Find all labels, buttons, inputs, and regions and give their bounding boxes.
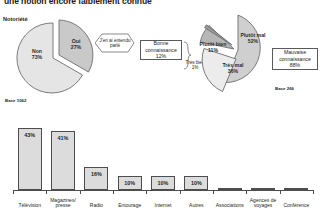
infographic-root: une notion encore faiblement connue Noto…: [0, 0, 322, 215]
bar-value-label: 41%: [52, 135, 74, 141]
bar: 43%: [18, 128, 42, 190]
category-label: Agences de voyages: [244, 198, 281, 209]
callout-entendu-parle-text: J'en ai entendu parlé: [95, 30, 135, 56]
axis-tick: [180, 190, 181, 193]
bar: [251, 188, 275, 190]
callout-mauvaise-connaissance-label: Mauvaise connaissance: [275, 49, 315, 62]
callout-bonne-connaissance: Bonne connaissance 12%: [140, 40, 182, 60]
category-label: Conférence: [278, 203, 315, 209]
bar: 10%: [118, 176, 142, 190]
pie-label-plutot-bien: Plutôt bien 11%: [199, 41, 227, 53]
pie-label-plutot-mal: Plutôt mal 52%: [236, 32, 270, 44]
axis-tick: [246, 190, 247, 193]
base-label-right: Base 266: [275, 86, 294, 91]
bar: 10%: [184, 176, 208, 190]
bar-value-label: 10%: [185, 180, 207, 186]
axis-tick: [213, 190, 214, 193]
callout-bonne-connaissance-label: Bonne connaissance: [143, 40, 179, 53]
bar-value-label: 10%: [152, 180, 174, 186]
axis-tick: [113, 190, 114, 193]
bar: 41%: [51, 131, 75, 190]
sources-bar-chart: Base 1062 43%41%16%10%10%10% TélévisionM…: [0, 96, 322, 215]
category-label: Associations: [211, 203, 248, 209]
bar-value-label: 16%: [85, 171, 107, 177]
axis-tick: [146, 190, 147, 193]
bar: 10%: [151, 176, 175, 190]
axis-tick: [46, 190, 47, 193]
notoriete-pie: Non 73% Oui 27%: [14, 18, 98, 92]
pie-label-oui: Oui 27%: [64, 38, 88, 50]
callout-mauvaise-connaissance: Mauvaise connaissance 88%: [272, 48, 318, 70]
axis-tick: [80, 190, 81, 193]
page-title: une notion encore faiblement connue: [4, 0, 304, 6]
axis-tick: [280, 190, 281, 193]
callout-mauvaise-connaissance-value: 88%: [290, 62, 300, 68]
axis-tick: [13, 190, 14, 193]
callout-bonne-connaissance-value: 12%: [156, 53, 166, 59]
category-label: Entourage: [111, 203, 148, 209]
category-label: Radio: [78, 203, 115, 209]
pie-label-tres-mal: Très mal 36%: [218, 62, 248, 74]
bar: [284, 188, 308, 190]
bar: 16%: [84, 167, 108, 190]
bar-value-label: 10%: [119, 180, 141, 186]
callout-entendu-parle: J'en ai entendu parlé: [95, 30, 135, 56]
bar-value-label: 43%: [19, 132, 41, 138]
category-label: Internet: [144, 203, 181, 209]
base-label-left: Base 1062: [5, 98, 26, 103]
pie-label-non: Non 73%: [20, 48, 54, 60]
axis-tick: [313, 190, 314, 193]
connaissance-pie: Plutôt mal 52% Très mal 36% Plutôt bien …: [196, 14, 280, 94]
category-label: Magazines/ presse: [44, 198, 81, 209]
bar: [218, 188, 242, 190]
category-label: Télévision: [11, 203, 48, 209]
category-label: Autres: [178, 203, 215, 209]
